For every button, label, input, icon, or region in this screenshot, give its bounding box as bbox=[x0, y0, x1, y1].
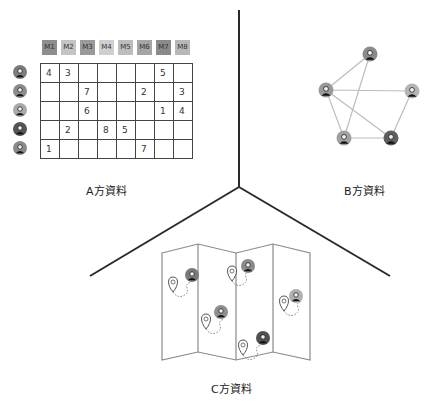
three-party-data-diagram: M1M2M3M4M5M6M7M8 43572361428517 A方資料 B方資… bbox=[0, 0, 431, 416]
location-pin-dot bbox=[230, 269, 234, 273]
location-avatar-icon bbox=[185, 268, 199, 282]
location-pin-dot bbox=[171, 280, 175, 284]
folded-map bbox=[0, 0, 431, 416]
location-avatar-icon bbox=[214, 305, 228, 319]
location-avatar-icon bbox=[241, 259, 255, 273]
location-pin-dot bbox=[204, 317, 208, 321]
location-pin-dot bbox=[241, 343, 245, 347]
location-pin-dot bbox=[282, 299, 286, 303]
location-avatar-icon bbox=[289, 289, 303, 303]
location-avatar-icon bbox=[256, 331, 270, 345]
panel-c-label: C方資料 bbox=[211, 380, 252, 396]
